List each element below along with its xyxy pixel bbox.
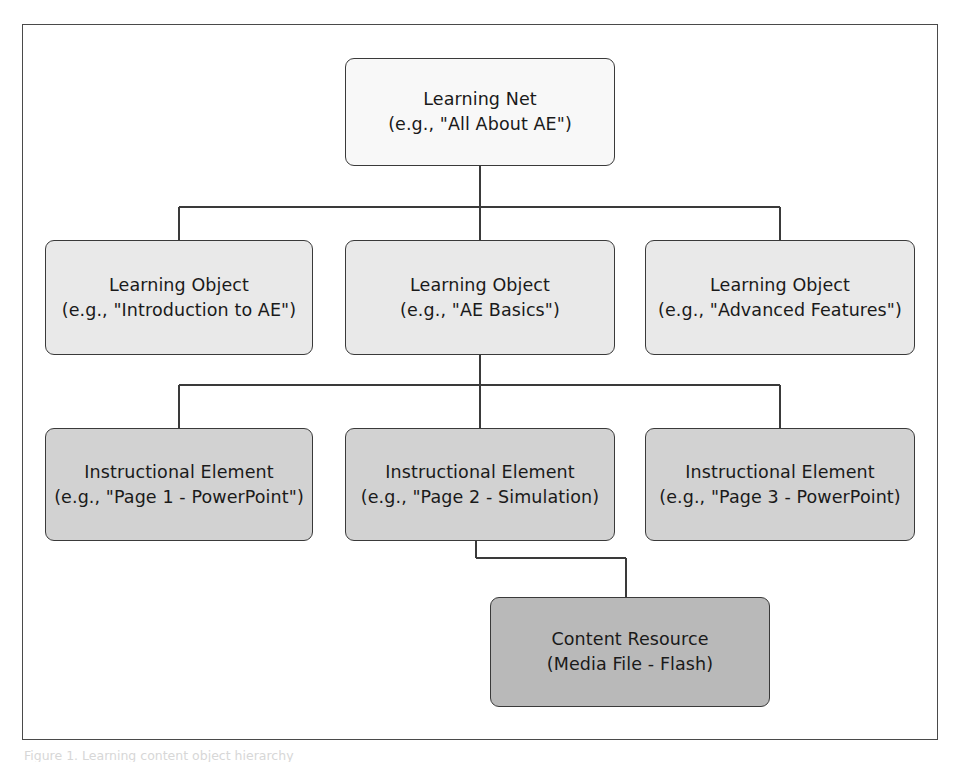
node-learning-object-3[interactable]: Learning Object (e.g., "Advanced Feature… xyxy=(645,240,915,355)
node-instructional-element-3[interactable]: Instructional Element (e.g., "Page 3 - P… xyxy=(645,428,915,541)
node-example: (e.g., "Introduction to AE") xyxy=(62,299,296,322)
node-learning-object-2[interactable]: Learning Object (e.g., "AE Basics") xyxy=(345,240,615,355)
node-example: (Media File - Flash) xyxy=(547,653,713,676)
node-example: (e.g., "Page 2 - Simulation) xyxy=(361,486,599,509)
node-title: Instructional Element xyxy=(84,461,273,484)
node-learning-net[interactable]: Learning Net (e.g., "All About AE") xyxy=(345,58,615,166)
node-instructional-element-2[interactable]: Instructional Element (e.g., "Page 2 - S… xyxy=(345,428,615,541)
node-example: (e.g., "Page 1 - PowerPoint") xyxy=(54,486,304,509)
node-example: (e.g., "All About AE") xyxy=(388,113,572,136)
node-example: (e.g., "Advanced Features") xyxy=(658,299,902,322)
node-title: Learning Object xyxy=(410,274,550,297)
diagram-canvas: Learning Net (e.g., "All About AE") Lear… xyxy=(0,0,959,762)
node-title: Learning Object xyxy=(710,274,850,297)
node-learning-object-1[interactable]: Learning Object (e.g., "Introduction to … xyxy=(45,240,313,355)
node-title: Content Resource xyxy=(551,628,708,651)
node-example: (e.g., "AE Basics") xyxy=(400,299,560,322)
figure-caption: Figure 1. Learning content object hierar… xyxy=(24,748,444,762)
node-example: (e.g., "Page 3 - PowerPoint) xyxy=(659,486,901,509)
node-title: Learning Object xyxy=(109,274,249,297)
node-instructional-element-1[interactable]: Instructional Element (e.g., "Page 1 - P… xyxy=(45,428,313,541)
node-title: Instructional Element xyxy=(685,461,874,484)
node-content-resource[interactable]: Content Resource (Media File - Flash) xyxy=(490,597,770,707)
node-title: Instructional Element xyxy=(385,461,574,484)
node-title: Learning Net xyxy=(423,88,536,111)
